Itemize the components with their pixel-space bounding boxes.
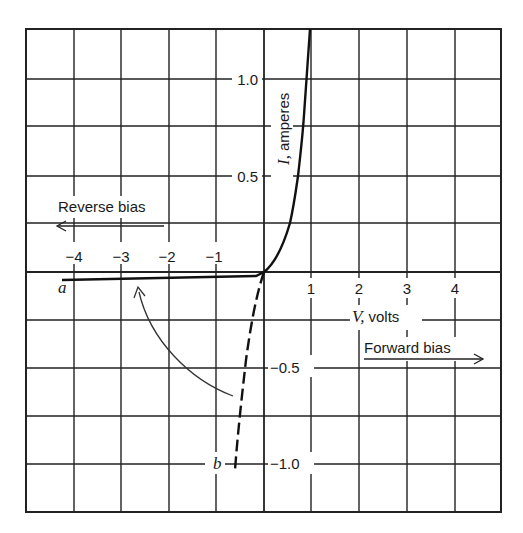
x-tick-neg-4: −4: [65, 248, 82, 265]
x-tick-2: 2: [355, 280, 363, 297]
grid: [26, 29, 501, 512]
y-tick-neg-1.0: −1.0: [270, 455, 300, 472]
x-tick-neg-2: −2: [158, 248, 175, 265]
curve-a-label: a: [58, 278, 67, 297]
svg-text:V,volts: V,volts: [352, 307, 399, 326]
x-tick-neg-3: −3: [112, 248, 129, 265]
x-tick-neg-1: −1: [205, 248, 222, 265]
y-tick-1.0: 1.0: [237, 71, 258, 88]
x-axis-label: V,volts: [350, 305, 420, 327]
curve-b: [235, 272, 264, 470]
reverse-bias-label: Reverse bias: [58, 198, 146, 215]
curved-pointer-arrow: [134, 287, 233, 396]
diode-iv-chart: 1.0 0.5 −0.5 −1.0 −4 −3 −2 −1 1 2 3 4 V,…: [0, 0, 523, 533]
forward-bias-label: Forward bias: [364, 339, 451, 356]
curve-b-label: b: [213, 454, 222, 473]
x-tick-1: 1: [307, 280, 315, 297]
y-tick-0.5: 0.5: [237, 168, 258, 185]
x-tick-4: 4: [451, 280, 459, 297]
y-tick-neg-0.5: −0.5: [270, 359, 300, 376]
x-tick-3: 3: [403, 280, 411, 297]
